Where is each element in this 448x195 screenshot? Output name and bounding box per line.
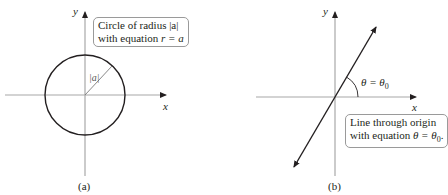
line-equation: θ = θ bbox=[413, 129, 437, 141]
panel-b-caption: (b) bbox=[328, 180, 341, 192]
angle-arc bbox=[347, 77, 358, 97]
angle-label: θ = θ0 bbox=[361, 76, 389, 93]
panel-a-callout: Circle of radius |a| with equation r = a bbox=[93, 17, 189, 47]
panel-a-callout-line2: with equation r = a bbox=[98, 32, 184, 45]
circle-equation: r = a bbox=[161, 32, 184, 44]
panel-b-callout-line2: with equation θ = θ0. bbox=[350, 129, 443, 146]
panel-b-x-label: x bbox=[412, 101, 417, 113]
panel-b-callout: Line through origin with equation θ = θ0… bbox=[345, 114, 448, 148]
panel-b-graph bbox=[256, 12, 416, 176]
panel-a-y-label: y bbox=[73, 5, 78, 17]
panel-a-x-label: x bbox=[163, 100, 168, 112]
panel-a-callout-line1: Circle of radius |a| bbox=[98, 19, 184, 32]
panel-b-y-label: y bbox=[323, 5, 328, 17]
panel-b-callout-line1: Line through origin bbox=[350, 116, 443, 129]
panel-a-caption: (a) bbox=[78, 180, 90, 192]
line-through-origin-lower bbox=[294, 97, 335, 167]
radius-label: |a| bbox=[89, 72, 100, 84]
